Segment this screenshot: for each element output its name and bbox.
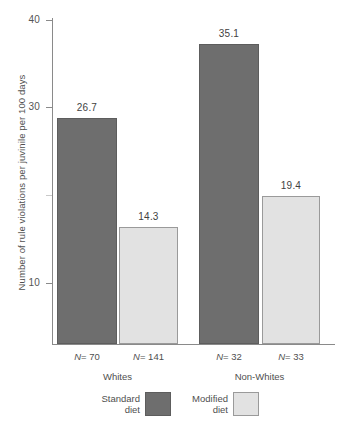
y-tick-mark (46, 195, 52, 196)
y-tick-label: 30 (18, 102, 40, 112)
legend-item-standard-diet[interactable]: Standard diet (85, 392, 171, 416)
sample-size-whites-modified: N= 141 (119, 352, 178, 362)
bar-whites-modified[interactable] (119, 227, 178, 344)
y-tick-30: 30 (0, 102, 52, 112)
y-tick-label: 10 (18, 278, 40, 288)
y-tick-mark (46, 283, 52, 284)
legend-label: Standard diet (85, 393, 145, 415)
legend-swatch-modified-diet (233, 392, 259, 416)
n-value: = 70 (81, 351, 100, 362)
sample-size-whites-standard: N= 70 (57, 352, 117, 362)
bar-nonwhites-standard[interactable] (199, 44, 259, 344)
y-axis-line (52, 18, 53, 345)
group-label-non-whites: Non-Whites (199, 372, 320, 382)
y-tick-20 (0, 190, 52, 200)
bar-whites-standard[interactable] (57, 118, 117, 344)
bar-value-label: 14.3 (119, 212, 178, 222)
sample-size-nonwhites-standard: N= 32 (199, 352, 259, 362)
legend-label: Modified diet (173, 393, 233, 415)
bar-value-label: 26.7 (57, 103, 117, 113)
y-tick-mark (46, 20, 52, 21)
bar-nonwhites-modified[interactable] (262, 196, 320, 344)
n-value: = 33 (285, 351, 304, 362)
legend: Standard diet Modified diet (0, 392, 341, 426)
bar-chart: Number of rule violations per juvinile p… (0, 0, 341, 430)
y-tick-10: 10 (0, 278, 52, 288)
y-tick-label: 40 (18, 15, 40, 25)
bar-value-label: 19.4 (262, 181, 320, 191)
y-tick-40: 40 (0, 15, 52, 25)
legend-item-modified-diet[interactable]: Modified diet (173, 392, 259, 416)
bar-value-label: 35.1 (199, 29, 259, 39)
n-value: = 141 (140, 351, 164, 362)
y-tick-mark (46, 107, 52, 108)
sample-size-nonwhites-modified: N= 33 (262, 352, 320, 362)
n-value: = 32 (223, 351, 242, 362)
group-label-whites: Whites (57, 372, 178, 382)
legend-swatch-standard-diet (145, 392, 171, 416)
x-axis-line (52, 344, 335, 345)
n-symbol: N (133, 351, 140, 362)
